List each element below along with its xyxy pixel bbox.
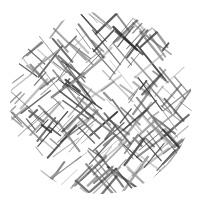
hatch-stroke [104,93,111,100]
hatch-stroke [69,57,104,86]
hatch-stroke [10,92,21,103]
hatch-strokes [1,0,200,204]
hatch-stroke [133,151,162,173]
hatch-stroke [76,181,89,192]
hatch-stroke [180,102,200,119]
hatch-stroke [87,76,120,100]
hatch-stroke [133,149,169,176]
hatch-stroke [36,147,43,156]
hatch-stroke [50,17,66,38]
hatch-stroke [155,86,163,96]
hatch-stroke [1,107,27,128]
hatch-stroke [50,170,77,196]
hatch-stroke [1,73,33,98]
hatch-stroke [163,85,181,106]
hatch-stroke [79,127,95,143]
crosshatch-circle-texture [0,0,200,204]
hatch-stroke [31,57,46,75]
hatch-stroke [57,48,81,82]
hatch-stroke [7,75,23,87]
hatch-stroke [51,157,81,180]
hatch-stroke [101,82,114,92]
